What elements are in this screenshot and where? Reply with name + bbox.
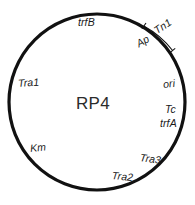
marker-label-tc: Tc bbox=[165, 104, 176, 115]
plasmid-name-label: RP4 bbox=[76, 95, 110, 112]
marker-label-ori: ori bbox=[162, 78, 175, 90]
marker-label-tra2: Tra2 bbox=[111, 170, 133, 183]
marker-label-trfb: trfB bbox=[78, 17, 95, 28]
marker-label-trfa: trfA bbox=[160, 118, 177, 129]
plasmid-map-figure: RP4 trfB Tn1 Ap ori Tc trfA Tra3 Tra2 Km… bbox=[0, 0, 195, 205]
marker-label-tra3: Tra3 bbox=[139, 152, 161, 165]
marker-label-tra1: Tra1 bbox=[18, 77, 40, 89]
marker-label-km: Km bbox=[29, 141, 46, 153]
